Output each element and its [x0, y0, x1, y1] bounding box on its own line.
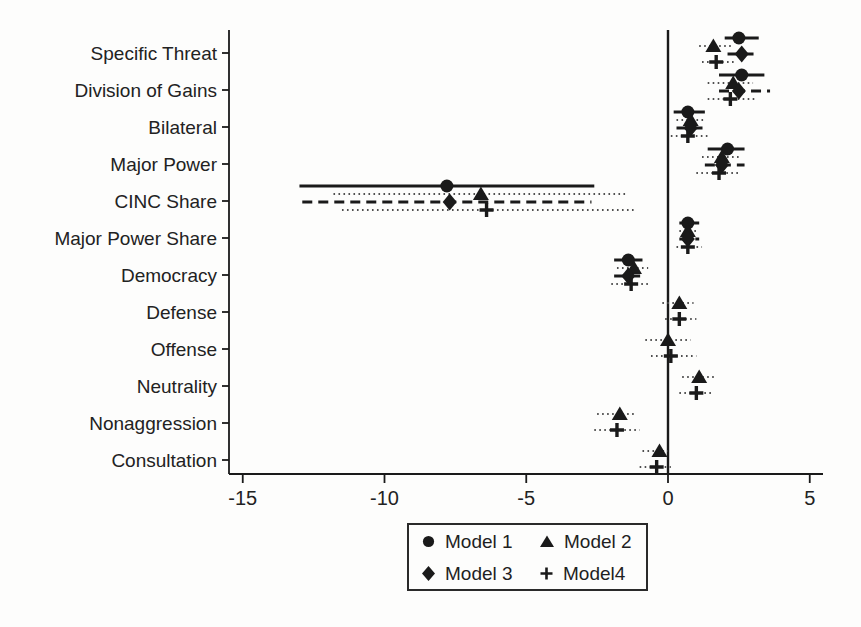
data-point-plus: [672, 312, 686, 326]
data-point-triangle: [612, 407, 628, 421]
category-label: Major Power Share: [54, 228, 217, 249]
legend-label-model-1: Model 1: [445, 532, 513, 551]
category-label: Specific Threat: [91, 43, 218, 64]
circle-marker-icon: [421, 534, 436, 549]
data-point-plus: [480, 203, 494, 217]
data-point-plus: [681, 240, 695, 254]
chart-legend: Model 1 Model 2 Model4 Model 3 Model4: [407, 523, 648, 591]
category-label: Major Power: [110, 154, 217, 175]
category-label: Nonaggression: [89, 413, 217, 434]
legend-label-model-4: Model4: [563, 564, 625, 583]
category-label: Defense: [146, 302, 217, 323]
data-point-plus: [650, 460, 664, 474]
legend-entry-model-1: Model 1: [421, 532, 539, 551]
diamond-marker-icon: [421, 565, 436, 582]
data-point-plus: [709, 55, 723, 69]
category-label: Democracy: [121, 265, 218, 286]
legend-label-model-2: Model 2: [564, 532, 632, 551]
plus-marker-icon: [539, 566, 554, 581]
x-axis-tick-label: -15: [228, 487, 257, 509]
data-point-circle: [735, 69, 748, 82]
data-point-circle: [732, 32, 745, 45]
category-label: Bilateral: [148, 117, 217, 138]
legend-label-model-3: Model 3: [445, 564, 513, 583]
legend-entry-model-3: Model4 Model 3: [421, 564, 539, 583]
data-point-diamond: [443, 194, 457, 211]
data-point-circle: [440, 180, 453, 193]
data-point-triangle: [473, 187, 489, 201]
data-point-plus: [689, 386, 703, 400]
data-point-plus: [664, 349, 678, 363]
triangle-marker-icon: [539, 534, 555, 549]
legend-entry-model-2: Model 2: [539, 532, 646, 551]
category-label: Neutrality: [137, 376, 218, 397]
category-label: CINC Share: [115, 191, 217, 212]
data-point-diamond: [735, 46, 749, 63]
x-axis-tick-label: -10: [370, 487, 399, 509]
data-point-triangle: [705, 39, 721, 53]
data-point-plus: [610, 423, 624, 437]
category-label: Offense: [151, 339, 217, 360]
x-axis-tick-label: 0: [662, 487, 673, 509]
data-point-triangle: [660, 333, 676, 347]
x-axis-tick-label: 5: [804, 487, 815, 509]
x-axis-tick-label: -5: [517, 487, 535, 509]
category-label: Consultation: [111, 450, 217, 471]
legend-entry-model-4: Model4: [539, 564, 646, 583]
category-label: Division of Gains: [74, 80, 217, 101]
coefficient-plot-figure: Specific ThreatDivision of GainsBilatera…: [0, 0, 861, 627]
